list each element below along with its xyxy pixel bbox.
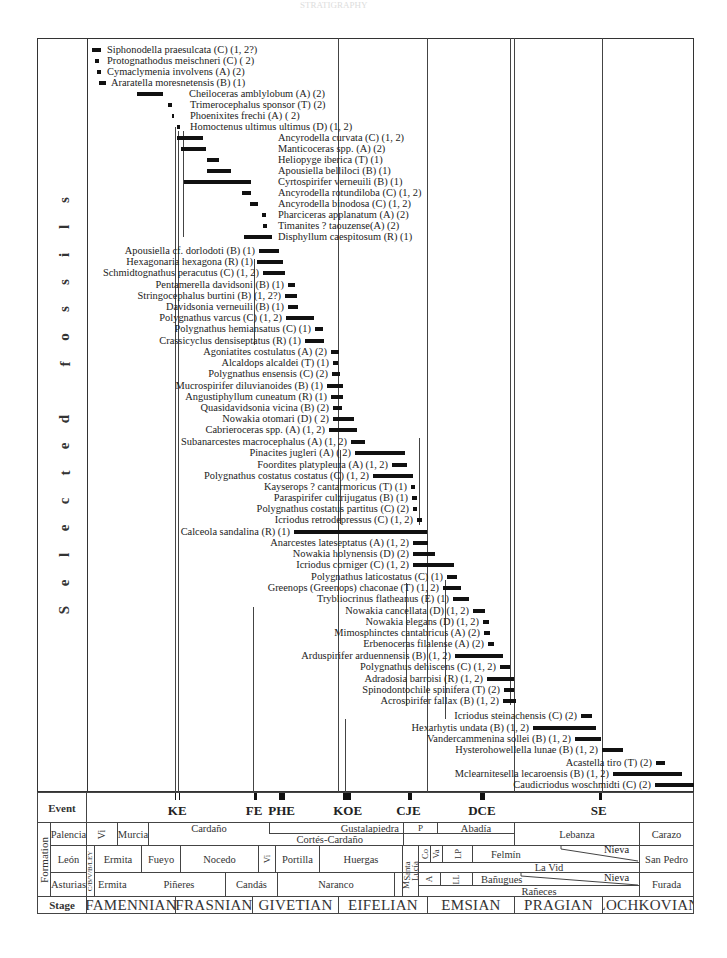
- fossil-range-bar: [443, 586, 461, 590]
- vertical-title-letter: e: [54, 443, 74, 450]
- asturias-furada: Furada: [639, 872, 694, 897]
- fossil-range-bar: [168, 103, 172, 107]
- palencia-carazo: Carazo: [639, 822, 694, 846]
- fossil-label: Polygnathus ensensis (C) (2): [208, 368, 328, 380]
- vertical-title-letter: o: [54, 333, 74, 341]
- leon-huergas: Huergas: [319, 845, 403, 873]
- fossil-label: Schmidtognathus peracutus (C) (1, 2): [103, 267, 259, 279]
- vertical-title-letter: t: [54, 471, 74, 476]
- leon-portilla: Portilla: [275, 845, 320, 873]
- fossil-range-bar: [207, 169, 231, 173]
- palencia-vi-text: Vi: [97, 829, 108, 838]
- fossil-range-bar: [184, 180, 251, 184]
- vertical-title-letter: s: [54, 197, 74, 203]
- palencia-abadia: Abadía: [437, 822, 515, 834]
- fossil-range-bar: [262, 213, 266, 217]
- event-marker-se: [599, 793, 602, 800]
- fossil-range-bar: [333, 417, 354, 421]
- fossil-range-bar: [500, 665, 510, 669]
- leon-nocedo: Nocedo: [180, 845, 259, 873]
- fossil-range-bar: [575, 737, 601, 741]
- range-line: [510, 38, 511, 705]
- palencia-vi: Vi: [86, 822, 118, 846]
- asturias-m: M: [394, 872, 419, 897]
- vertical-title-letter: l: [54, 553, 74, 557]
- event-label-koe: KOE: [333, 803, 362, 819]
- stage-givetian: GIVETIAN: [252, 896, 339, 914]
- fossil-label: Cabrieroceras spp. (A) (1, 2): [206, 424, 325, 436]
- stage-eifelian: EIFELIAN: [338, 896, 428, 914]
- fossil-label: Polygnathus hemiansatus (C) (1): [174, 323, 311, 335]
- fossil-range-bar: [656, 761, 665, 765]
- vertical-title-letter: f: [54, 361, 74, 366]
- title-column-divider: [87, 38, 88, 792]
- fossil-range-bar: [503, 699, 516, 703]
- range-line: [602, 38, 603, 792]
- fossil-range-bar: [288, 283, 295, 287]
- event-marker-cje: [408, 793, 412, 800]
- fossil-range-bar: [242, 191, 251, 195]
- event-header: Event: [37, 792, 87, 823]
- fossil-range-bar: [181, 147, 206, 151]
- vertical-title-letter: d: [54, 414, 74, 422]
- vertical-title-letter: e: [54, 525, 74, 532]
- palencia-p: P: [403, 822, 438, 834]
- vertical-title-letter: l: [54, 225, 74, 229]
- stage-header: Stage: [37, 896, 87, 914]
- fossil-range-bar: [288, 305, 298, 309]
- palencia-murcia: Murcia: [117, 822, 149, 846]
- leon-lp-text: LP: [452, 849, 462, 859]
- fossil-range-bar: [392, 463, 407, 467]
- asturias-ll-text: LL: [452, 874, 461, 884]
- range-line: [345, 719, 346, 792]
- fossil-label: Disphyllum caespitosum (R) (1): [278, 231, 412, 243]
- stage-emsian: EMSIAN: [427, 896, 515, 914]
- fossil-label: Icriodus corniger (C) (1, 2): [296, 559, 409, 571]
- asturias-ll: LL: [440, 872, 473, 886]
- fossil-range-bar: [412, 496, 417, 500]
- range-line: [178, 131, 179, 792]
- fossil-range-bar: [533, 726, 596, 730]
- fossil-range-bar: [315, 327, 323, 331]
- fossil-range-bar: [332, 372, 340, 376]
- fossil-range-bar: [257, 260, 283, 264]
- fossil-range-bar: [172, 114, 174, 118]
- fossil-range-bar: [331, 395, 343, 399]
- fossil-range-bar: [351, 440, 365, 444]
- fossil-label: Pinacites jugleri (A) ( 2): [249, 447, 351, 459]
- leon-vi-text: Vi: [262, 855, 272, 863]
- formation-header-text: Formation: [38, 837, 50, 883]
- fossil-label: Hysterohowellella lunae (B) (1, 2): [455, 744, 598, 756]
- fossil-range-bar: [413, 552, 435, 556]
- leon-co-text: Co: [419, 849, 429, 859]
- asturias-a: A: [418, 872, 441, 886]
- vertical-title-letter: c: [54, 497, 74, 504]
- fossil-range-bar: [413, 507, 417, 511]
- leon-nieva-wedge: [560, 846, 640, 862]
- fossil-range-bar: [329, 428, 357, 432]
- fossil-range-bar: [504, 688, 514, 692]
- row-label-palencia: Palencia: [50, 822, 87, 846]
- leon-san-pedro: San Pedro: [639, 845, 694, 873]
- vertical-title-letter: e: [54, 579, 74, 586]
- stage-frasnian: FRASNIAN: [175, 896, 253, 914]
- fossil-range-bar: [373, 474, 413, 478]
- fossil-label: Icriodus retrodepressus (C) (1, 2): [275, 514, 413, 526]
- leon-ermita: Ermita: [94, 845, 142, 873]
- fossil-range-bar: [207, 158, 219, 162]
- fossil-label: Polygnathus dehiscens (C) (1, 2): [360, 661, 496, 673]
- event-marker-koe: [343, 793, 351, 800]
- fossil-range-bar: [473, 609, 485, 613]
- fossil-label: Icriodus steinachensis (C) (2): [454, 710, 577, 722]
- asturias-naranco: Naranco: [277, 872, 395, 897]
- fossil-range-bar: [413, 541, 428, 545]
- fossil-range-bar: [483, 620, 489, 624]
- fossil-label: Trybliocrinus flatheanus (E) (1): [317, 593, 449, 605]
- fossil-range-bar: [250, 202, 258, 206]
- leon-va-text: Va: [431, 850, 441, 859]
- fossil-range-bar: [177, 125, 180, 129]
- fossil-range-bar: [285, 294, 297, 298]
- fossil-range-bar: [417, 518, 422, 522]
- event-marker-phe: [279, 793, 285, 800]
- fossil-range-bar: [286, 316, 314, 320]
